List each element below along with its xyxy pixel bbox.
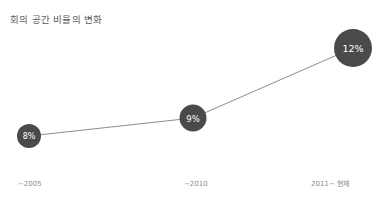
- data-point-0[interactable]: 8%: [17, 124, 41, 148]
- bubble-line-chart: 회의 공간 비율의 변화 8% 9% 12% ~2005 ~2010 2011~…: [0, 0, 386, 201]
- x-axis-tick-label-1: ~2010: [184, 179, 208, 189]
- bubble-value-label: 8%: [23, 132, 36, 141]
- bubble-value-label: 9%: [186, 114, 200, 124]
- x-axis-tick-label-2: 2011~ 현재: [311, 179, 349, 189]
- data-point-2[interactable]: 12%: [334, 29, 372, 67]
- chart-plot-area: 8% 9% 12%: [0, 0, 386, 201]
- data-point-1[interactable]: 9%: [180, 105, 207, 132]
- x-axis-tick-label-0: ~2005: [18, 179, 42, 189]
- bubble-value-label: 12%: [342, 43, 363, 54]
